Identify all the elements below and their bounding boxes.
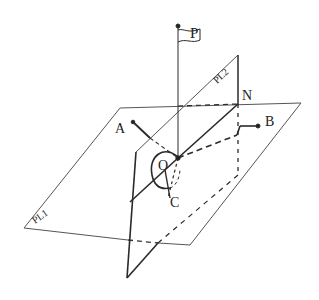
intersection-line [130,104,238,202]
label-p: P [190,25,198,41]
label-n: N [242,88,252,103]
geometry-diagram: P PL2 N A B O C PL1 [0,0,319,300]
label-pl1: PL1 [30,207,50,226]
segment-ob [178,124,260,158]
label-o: O [158,158,168,173]
label-b: B [265,114,274,129]
flag [176,24,200,158]
label-a: A [115,121,126,136]
label-c: C [170,195,179,210]
label-pl2: PL2 [211,66,231,85]
